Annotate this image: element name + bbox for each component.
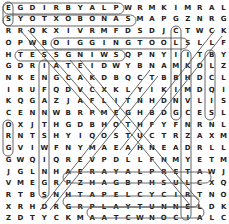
grid-cell[interactable]: L bbox=[122, 155, 134, 167]
grid-cell[interactable]: M bbox=[86, 143, 98, 155]
grid-cell[interactable]: M bbox=[218, 155, 229, 167]
grid-cell[interactable]: K bbox=[158, 85, 170, 97]
grid-cell[interactable]: A bbox=[98, 167, 110, 179]
grid-cell[interactable]: D bbox=[38, 202, 50, 214]
grid-cell[interactable]: L bbox=[26, 167, 38, 179]
grid-cell[interactable]: L bbox=[218, 143, 229, 155]
grid-cell[interactable]: N bbox=[26, 108, 38, 120]
grid-cell[interactable]: Z bbox=[182, 131, 194, 143]
grid-cell[interactable]: I bbox=[98, 38, 110, 50]
grid-cell[interactable]: G bbox=[218, 14, 229, 26]
grid-cell[interactable]: R bbox=[62, 155, 74, 167]
grid-cell[interactable]: E bbox=[110, 108, 122, 120]
grid-cell[interactable]: G bbox=[3, 61, 15, 73]
grid-cell[interactable]: H bbox=[146, 178, 158, 190]
grid-cell[interactable]: V bbox=[3, 178, 15, 190]
grid-cell[interactable]: D bbox=[182, 143, 194, 155]
grid-cell[interactable]: O bbox=[50, 38, 62, 50]
grid-cell[interactable]: L bbox=[122, 190, 134, 202]
grid-cell[interactable]: K bbox=[3, 96, 15, 108]
grid-cell[interactable]: A bbox=[122, 167, 134, 179]
grid-cell[interactable]: I bbox=[146, 85, 158, 97]
grid-cell[interactable]: B bbox=[122, 178, 134, 190]
grid-cell[interactable]: T bbox=[206, 155, 218, 167]
grid-cell[interactable]: M bbox=[98, 108, 110, 120]
grid-cell[interactable]: O bbox=[26, 26, 38, 38]
grid-cell[interactable]: B bbox=[26, 190, 38, 202]
grid-cell[interactable]: D bbox=[158, 96, 170, 108]
grid-cell[interactable]: L bbox=[218, 73, 229, 85]
grid-cell[interactable]: B bbox=[38, 38, 50, 50]
grid-cell[interactable]: H bbox=[146, 96, 158, 108]
grid-cell[interactable]: N bbox=[206, 120, 218, 132]
grid-cell[interactable]: I bbox=[182, 213, 194, 224]
grid-cell[interactable]: T bbox=[38, 120, 50, 132]
grid-cell[interactable]: G bbox=[170, 108, 182, 120]
grid-cell[interactable]: E bbox=[170, 167, 182, 179]
grid-cell[interactable]: O bbox=[3, 120, 15, 132]
grid-cell[interactable]: B bbox=[206, 50, 218, 62]
grid-cell[interactable]: M bbox=[134, 14, 146, 26]
grid-cell[interactable]: O bbox=[26, 14, 38, 26]
grid-cell[interactable]: T bbox=[158, 131, 170, 143]
grid-cell[interactable]: N bbox=[98, 14, 110, 26]
grid-cell[interactable]: Q bbox=[218, 178, 229, 190]
grid-cell[interactable]: R bbox=[86, 167, 98, 179]
grid-cell[interactable]: N bbox=[38, 108, 50, 120]
grid-cell[interactable]: A bbox=[86, 3, 98, 15]
grid-cell[interactable]: S bbox=[50, 50, 62, 62]
grid-cell[interactable]: R bbox=[50, 178, 62, 190]
grid-cell[interactable]: L bbox=[218, 120, 229, 132]
grid-cell[interactable]: Y bbox=[122, 202, 134, 214]
grid-cell[interactable]: P bbox=[14, 38, 26, 50]
grid-cell[interactable]: L bbox=[206, 38, 218, 50]
grid-cell[interactable]: M bbox=[218, 131, 229, 143]
grid-cell[interactable]: W bbox=[14, 155, 26, 167]
grid-cell[interactable]: U bbox=[134, 131, 146, 143]
grid-cell[interactable]: T bbox=[122, 120, 134, 132]
grid-cell[interactable]: D bbox=[158, 108, 170, 120]
grid-cell[interactable]: G bbox=[62, 50, 74, 62]
grid-cell[interactable]: H bbox=[134, 108, 146, 120]
grid-cell[interactable]: A bbox=[122, 143, 134, 155]
grid-cell[interactable]: D bbox=[98, 73, 110, 85]
grid-cell[interactable]: K bbox=[182, 61, 194, 73]
grid-cell[interactable]: P bbox=[134, 178, 146, 190]
grid-cell[interactable]: N bbox=[170, 202, 182, 214]
grid-cell[interactable]: J bbox=[26, 120, 38, 132]
grid-cell[interactable]: D bbox=[14, 213, 26, 224]
grid-cell[interactable]: A bbox=[62, 167, 74, 179]
grid-cell[interactable]: I bbox=[26, 143, 38, 155]
grid-cell[interactable]: C bbox=[134, 190, 146, 202]
grid-cell[interactable]: S bbox=[110, 50, 122, 62]
grid-cell[interactable]: E bbox=[14, 108, 26, 120]
grid-cell[interactable]: Y bbox=[14, 14, 26, 26]
grid-cell[interactable]: B bbox=[62, 3, 74, 15]
grid-cell[interactable]: L bbox=[182, 178, 194, 190]
grid-cell[interactable]: T bbox=[146, 73, 158, 85]
grid-cell[interactable]: Y bbox=[158, 120, 170, 132]
grid-cell[interactable]: R bbox=[3, 190, 15, 202]
grid-cell[interactable]: I bbox=[170, 50, 182, 62]
grid-cell[interactable]: E bbox=[194, 155, 206, 167]
grid-cell[interactable]: C bbox=[86, 85, 98, 97]
grid-cell[interactable]: Z bbox=[50, 96, 62, 108]
grid-cell[interactable]: N bbox=[38, 167, 50, 179]
grid-cell[interactable]: L bbox=[170, 38, 182, 50]
grid-cell[interactable]: T bbox=[26, 131, 38, 143]
grid-cell[interactable]: Z bbox=[218, 61, 229, 73]
grid-cell[interactable]: S bbox=[38, 190, 50, 202]
grid-cell[interactable]: I bbox=[3, 85, 15, 97]
grid-cell[interactable]: V bbox=[74, 85, 86, 97]
grid-cell[interactable]: W bbox=[134, 213, 146, 224]
grid-cell[interactable]: A bbox=[50, 61, 62, 73]
grid-cell[interactable]: X bbox=[206, 131, 218, 143]
grid-cell[interactable]: P bbox=[158, 14, 170, 26]
grid-cell[interactable]: C bbox=[218, 213, 229, 224]
grid-cell[interactable]: V bbox=[14, 143, 26, 155]
grid-cell[interactable]: L bbox=[98, 3, 110, 15]
grid-cell[interactable]: S bbox=[110, 131, 122, 143]
grid-cell[interactable]: W bbox=[122, 3, 134, 15]
grid-cell[interactable]: K bbox=[218, 26, 229, 38]
grid-cell[interactable]: N bbox=[62, 143, 74, 155]
